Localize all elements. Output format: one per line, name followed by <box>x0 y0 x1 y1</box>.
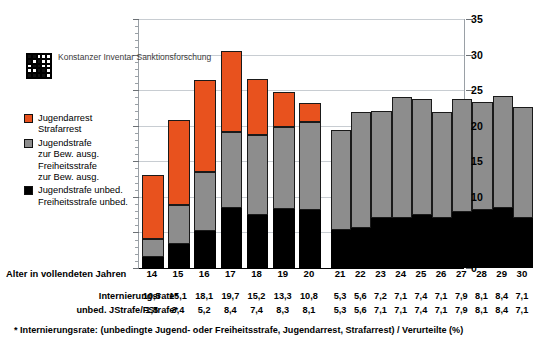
bar-segment-gray-age-15 <box>168 205 190 244</box>
bar-age-30 <box>513 107 533 268</box>
x-axis-tick-15: 15 <box>167 268 189 279</box>
logo-cell <box>46 73 51 78</box>
x-axis-tick-23: 23 <box>370 268 390 279</box>
logo-line-1: Inventar <box>103 52 134 62</box>
legend-item-2[interactable]: Jugendstrafe unbed.Freiheitsstrafe unbed… <box>24 185 128 208</box>
bar-segment-black-age-15 <box>168 244 190 268</box>
bar-segment-gray-age-30 <box>513 107 533 217</box>
logo-line-0: Konstanzer <box>58 52 101 62</box>
bar-segment-black-age-16 <box>194 231 216 268</box>
legend-swatch-icon-2 <box>24 186 33 195</box>
bar-age-14 <box>142 175 164 268</box>
unbed-jstrafe-value-30: 7,1 <box>511 305 533 315</box>
unbed-jstrafe-value-15: 3,4 <box>166 305 190 315</box>
legend-item-1[interactable]: Jugendstrafezur Bew. ausg.Freiheitsstraf… <box>24 138 128 184</box>
bar-segment-black-age-20 <box>299 210 321 268</box>
bar-age-18 <box>247 79 269 268</box>
bar-segment-black-age-25 <box>412 215 432 268</box>
y-axis-label-25: 25 <box>471 85 483 95</box>
y-axis-label-15: 15 <box>471 156 483 166</box>
footnote: * Internierungsrate: (unbedingte Jugend-… <box>14 325 463 335</box>
bar-segment-gray-age-17 <box>221 132 243 208</box>
internierungsrate-value-20: 10,8 <box>297 291 321 301</box>
bar-segment-gray-age-29 <box>493 96 513 208</box>
bar-segment-gray-age-18 <box>247 135 269 215</box>
legend-label-1-line-2: Freiheitsstrafe <box>38 161 99 172</box>
internierungsrate-value-18: 15,2 <box>245 291 269 301</box>
bar-segment-black-age-30 <box>513 218 533 269</box>
bar-segment-black-age-28 <box>472 210 492 268</box>
bar-age-22 <box>351 112 371 269</box>
bar-segment-black-age-18 <box>247 215 269 268</box>
bar-segment-gray-age-23 <box>371 111 391 218</box>
legend-item-0[interactable]: JugendarrestStrafarrest <box>24 113 128 136</box>
bar-segment-black-age-21 <box>331 230 351 268</box>
bar-segment-orange-age-16 <box>194 80 216 172</box>
chart-legend: JugendarrestStrafarrestJugendstrafezur B… <box>24 113 128 210</box>
bar-age-25 <box>412 99 432 268</box>
internierungsrate-value-25: 7,4 <box>410 291 432 301</box>
bar-segment-gray-age-25 <box>412 99 432 215</box>
y-axis-label-5: 5 <box>471 227 477 237</box>
x-axis-tick-16: 16 <box>193 268 215 279</box>
legend-swatch-icon-1 <box>24 139 33 148</box>
x-axis-title: Alter in vollendeten Jahren <box>6 268 134 279</box>
unbed-jstrafe-value-19: 8,3 <box>271 305 295 315</box>
bar-age-27 <box>452 99 472 268</box>
bar-segment-orange-age-19 <box>273 92 295 128</box>
bar-age-17 <box>221 51 243 268</box>
bar-segment-black-age-19 <box>273 209 295 268</box>
unbed-jstrafe-value-24: 7,1 <box>390 305 412 315</box>
x-axis-tick-19: 19 <box>272 268 294 279</box>
unbed-jstrafe-value-20: 8,1 <box>297 305 321 315</box>
legend-label-2-line-0: Jugendstrafe unbed. <box>38 185 128 196</box>
y-axis-label-30: 30 <box>471 50 483 60</box>
bar-age-15 <box>168 120 190 268</box>
internierungsrate-value-30: 7,1 <box>511 291 533 301</box>
legend-label-0: JugendarrestStrafarrest <box>38 113 92 136</box>
unbed-jstrafe-value-18: 7,4 <box>245 305 269 315</box>
bar-age-29 <box>493 96 513 268</box>
bar-age-21 <box>331 130 351 268</box>
x-axis-tick-18: 18 <box>246 268 268 279</box>
bar-segment-gray-age-16 <box>194 172 216 231</box>
unbed-jstrafe-value-28: 8,1 <box>470 305 492 315</box>
internierungsrate-value-14: 10,5 <box>140 291 164 301</box>
logo-line-2: Sanktionsforschung <box>136 52 211 62</box>
unbed-jstrafe-value-22: 5,6 <box>349 305 371 315</box>
x-axis-tick-29: 29 <box>492 268 512 279</box>
internierungsrate-value-15: 15,1 <box>166 291 190 301</box>
unbed-jstrafe-value-27: 7,9 <box>450 305 472 315</box>
internierungsrate-value-26: 7,1 <box>430 291 452 301</box>
x-axis-tick-14: 14 <box>141 268 163 279</box>
bar-segment-black-age-29 <box>493 208 513 268</box>
bar-segment-gray-age-24 <box>392 97 412 217</box>
logo-grid-icon <box>26 53 52 79</box>
legend-swatch-icon-0 <box>24 114 33 123</box>
bar-segment-gray-age-22 <box>351 112 371 229</box>
bar-segment-gray-age-26 <box>432 112 452 218</box>
bar-age-23 <box>371 111 391 268</box>
legend-label-1-line-0: Jugendstrafe <box>38 138 99 149</box>
legend-label-2-line-1: Freiheitsstrafe unbed. <box>38 197 128 208</box>
bar-segment-black-age-14 <box>142 257 164 268</box>
bar-segment-black-age-23 <box>371 218 391 269</box>
x-axis-tick-20: 20 <box>298 268 320 279</box>
y-axis-label-20: 20 <box>471 121 483 131</box>
x-axis-tick-21: 21 <box>330 268 350 279</box>
bar-segment-gray-age-19 <box>273 127 295 209</box>
unbed-jstrafe-value-16: 5,2 <box>192 305 216 315</box>
bar-segment-gray-age-21 <box>331 130 351 230</box>
unbed-jstrafe-value-23: 7,1 <box>369 305 391 315</box>
bar-segment-orange-age-17 <box>221 51 243 132</box>
internierungsrate-value-29: 8,4 <box>491 291 513 301</box>
bar-segment-black-age-24 <box>392 218 412 269</box>
bar-segment-orange-age-14 <box>142 175 164 239</box>
bar-segment-gray-age-14 <box>142 239 164 257</box>
internierungsrate-value-21: 5,3 <box>329 291 351 301</box>
legend-label-1: Jugendstrafezur Bew. ausg.Freiheitsstraf… <box>38 138 99 184</box>
bar-segment-gray-age-27 <box>452 99 472 211</box>
unbed-jstrafe-value-14: 1,5 <box>140 305 164 315</box>
unbed-jstrafe-value-17: 8,4 <box>219 305 243 315</box>
legend-label-2: Jugendstrafe unbed.Freiheitsstrafe unbed… <box>38 185 128 208</box>
